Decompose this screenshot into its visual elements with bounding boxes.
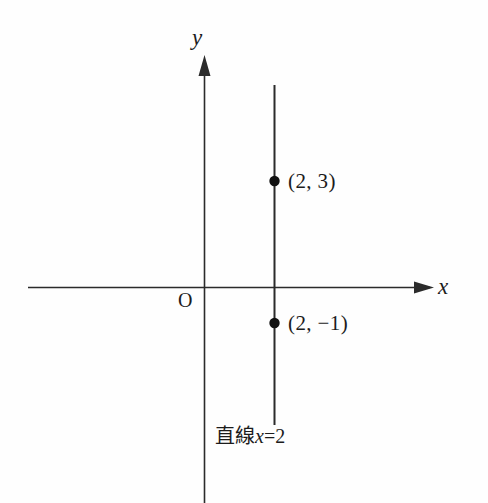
caption-equals-sign: = (264, 425, 275, 447)
point-label-2-3: (2, 3) (288, 171, 336, 192)
y-axis-arrowhead (199, 55, 211, 76)
line-equation-caption: 直線x=2 (215, 426, 285, 446)
caption-prefix-text: 直線 (215, 424, 255, 448)
y-axis-label: y (192, 26, 202, 49)
point-marker-2-minus-1 (269, 318, 279, 328)
point-label-2-minus-1: (2, −1) (288, 313, 348, 334)
x-axis-label: x (438, 275, 448, 298)
caption-value: 2 (275, 425, 285, 447)
coordinate-plane-figure: y x O (2, 3) (2, −1) 直線x=2 (0, 0, 488, 503)
x-axis-arrowhead (414, 282, 434, 294)
origin-label: O (178, 290, 192, 310)
point-marker-2-3 (269, 176, 279, 186)
caption-variable: x (255, 425, 264, 447)
